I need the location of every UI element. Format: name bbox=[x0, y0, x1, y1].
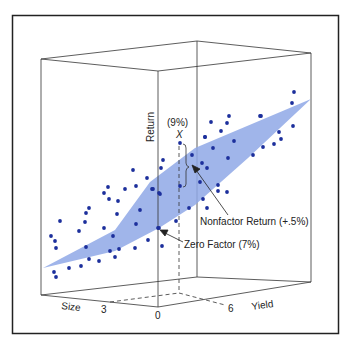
data-point bbox=[133, 246, 137, 250]
data-point bbox=[205, 206, 209, 210]
data-point bbox=[160, 244, 164, 248]
data-point bbox=[138, 208, 142, 212]
data-point bbox=[251, 153, 255, 157]
data-point bbox=[113, 255, 117, 259]
data-point bbox=[52, 270, 56, 274]
data-point bbox=[178, 184, 182, 188]
data-point bbox=[134, 222, 138, 226]
data-point bbox=[187, 206, 191, 210]
data-point bbox=[216, 183, 220, 187]
data-point bbox=[106, 185, 110, 189]
data-point bbox=[84, 245, 88, 249]
data-point bbox=[227, 114, 231, 118]
x-axis-label: Size bbox=[61, 300, 82, 313]
data-point bbox=[225, 121, 229, 125]
data-point bbox=[97, 259, 101, 263]
data-point bbox=[87, 206, 91, 210]
data-point bbox=[116, 199, 120, 203]
data-point bbox=[291, 124, 295, 128]
data-point bbox=[49, 234, 53, 238]
data-point bbox=[272, 142, 276, 146]
data-point bbox=[211, 146, 215, 150]
data-point bbox=[158, 192, 162, 196]
data-point bbox=[216, 189, 220, 193]
nonfactor-label: Nonfactor Return (+.5%) bbox=[200, 216, 309, 227]
data-point bbox=[54, 275, 58, 279]
data-point bbox=[219, 129, 223, 133]
data-point bbox=[123, 187, 127, 191]
data-point bbox=[159, 166, 163, 170]
x-point-label: X bbox=[175, 129, 183, 140]
data-point bbox=[226, 156, 230, 160]
data-point bbox=[198, 180, 202, 184]
z-axis-label: Return bbox=[145, 112, 156, 142]
data-point bbox=[102, 226, 106, 230]
data-point bbox=[117, 247, 121, 251]
x-point-value: (9%) bbox=[167, 117, 188, 128]
data-point bbox=[205, 166, 209, 170]
data-point bbox=[157, 226, 161, 230]
data-point bbox=[53, 239, 57, 243]
data-point bbox=[290, 101, 294, 105]
data-point bbox=[107, 197, 111, 201]
data-point bbox=[146, 238, 150, 242]
data-point bbox=[232, 139, 236, 143]
data-point bbox=[102, 191, 106, 195]
data-point bbox=[225, 190, 229, 194]
data-point bbox=[134, 184, 138, 188]
data-point bbox=[87, 257, 91, 261]
data-point bbox=[145, 176, 149, 180]
data-point bbox=[111, 234, 115, 238]
data-point bbox=[201, 197, 205, 201]
data-point bbox=[292, 90, 296, 94]
data-point bbox=[83, 220, 87, 224]
data-point bbox=[203, 135, 207, 139]
data-point bbox=[277, 130, 281, 134]
data-point bbox=[77, 229, 81, 233]
data-point bbox=[178, 141, 182, 145]
data-point bbox=[261, 145, 265, 149]
y-axis-label: Yield bbox=[251, 298, 274, 312]
data-point bbox=[200, 161, 204, 165]
data-point bbox=[209, 120, 213, 124]
data-point bbox=[108, 249, 112, 253]
data-point bbox=[54, 246, 58, 250]
data-point bbox=[67, 266, 71, 270]
data-point bbox=[79, 264, 83, 268]
tick-6: 6 bbox=[228, 303, 234, 314]
tick-3: 3 bbox=[101, 304, 107, 315]
data-point bbox=[190, 153, 194, 157]
arrow-head-icon bbox=[160, 230, 168, 236]
tick-0: 0 bbox=[155, 310, 161, 321]
data-point bbox=[115, 212, 119, 216]
data-point bbox=[174, 219, 178, 223]
data-point bbox=[84, 211, 88, 215]
chart-svg: Return (9%) X Nonfactor Return (+.5%) Ze… bbox=[0, 0, 351, 355]
data-point bbox=[161, 158, 165, 162]
data-point bbox=[131, 168, 135, 172]
data-point bbox=[151, 187, 155, 191]
data-point bbox=[279, 137, 283, 141]
figure-frame: Return (9%) X Nonfactor Return (+.5%) Ze… bbox=[0, 0, 351, 355]
data-point bbox=[258, 114, 262, 118]
zero-factor-label: Zero Factor (7%) bbox=[184, 239, 260, 250]
data-point bbox=[58, 219, 62, 223]
